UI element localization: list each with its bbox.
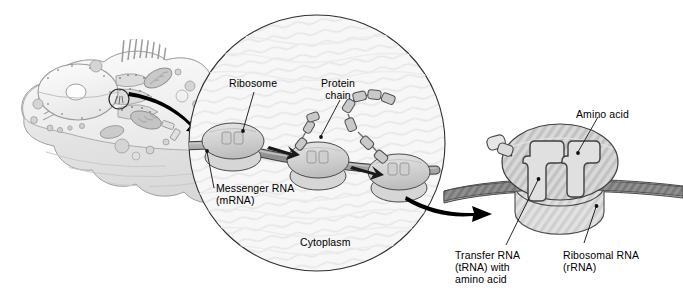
label-protein-chain-line1: Protein xyxy=(310,77,366,90)
label-protein-chain-line2: chain xyxy=(310,89,366,102)
label-ribosome: Ribosome xyxy=(229,77,277,90)
label-transfer-rna-line3: amino acid xyxy=(455,273,507,286)
label-ribosomal-rna-line1: Ribosomal RNA xyxy=(563,249,639,262)
nucleus xyxy=(38,64,118,120)
diagram-canvas: Ribosome Protein chain Messenger RNA (mR… xyxy=(0,0,683,298)
label-transfer-rna-line2: (tRNA) with xyxy=(455,261,510,274)
ribosome-3 xyxy=(368,154,430,202)
cytoplasm-closeup xyxy=(186,15,445,271)
label-transfer-rna-line1: Transfer RNA xyxy=(455,249,520,262)
label-ribosomal-rna-line2: (rRNA) xyxy=(563,261,596,274)
amino-acid-incoming xyxy=(486,134,514,157)
ribosome-2 xyxy=(287,142,349,190)
label-amino-acid: Amino acid xyxy=(576,108,629,121)
label-messenger-rna-line1: Messenger RNA xyxy=(216,182,294,195)
ribosome-1 xyxy=(202,123,264,171)
label-cytoplasm: Cytoplasm xyxy=(300,236,351,249)
label-messenger-rna-line2: (mRNA) xyxy=(216,194,255,207)
